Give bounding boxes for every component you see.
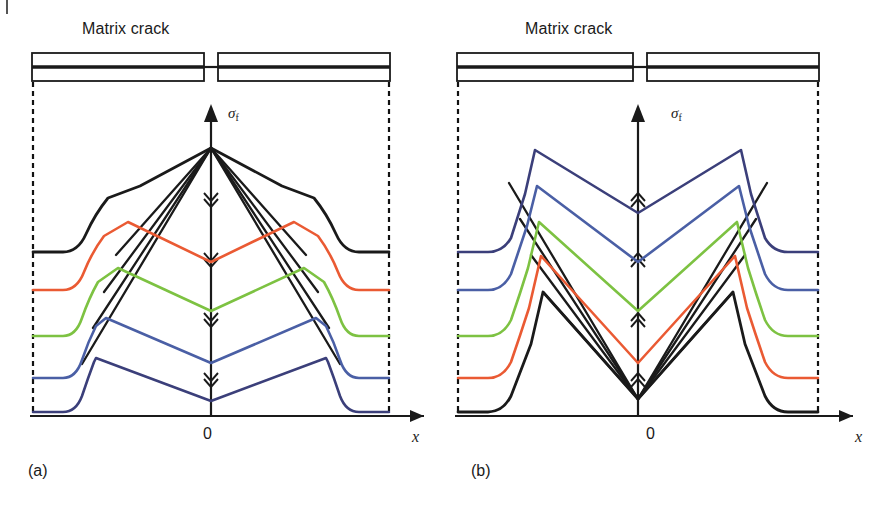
matrix-crack-bar-right-b bbox=[647, 53, 819, 81]
y-axis-arrowhead-b bbox=[631, 104, 645, 122]
panel-a: Matrix crack σf 0 x (a) bbox=[0, 0, 443, 510]
panel-b-graphics bbox=[443, 0, 886, 510]
panel-b: Matrix crack σf 0 x (b) bbox=[443, 0, 886, 510]
matrix-crack-bar-right-a bbox=[218, 53, 390, 81]
x-axis-arrowhead-a bbox=[410, 410, 424, 422]
panel-a-graphics bbox=[0, 0, 443, 510]
matrix-crack-bar-left-b bbox=[457, 53, 633, 81]
x-axis-arrowhead-b bbox=[839, 410, 853, 422]
figure-container: Matrix crack σf 0 x (a) bbox=[0, 0, 886, 510]
y-axis-arrowhead-a bbox=[204, 104, 218, 122]
matrix-crack-bar-left-a bbox=[32, 53, 204, 81]
